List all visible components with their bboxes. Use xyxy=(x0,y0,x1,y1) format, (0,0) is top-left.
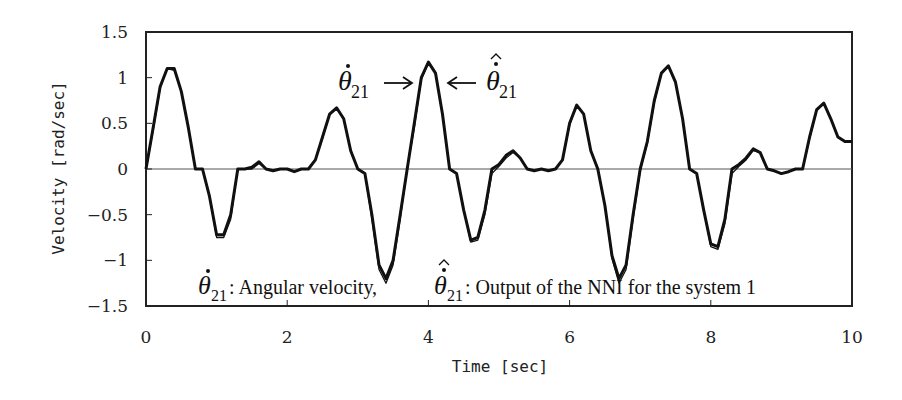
y-tick-label: −1 xyxy=(103,250,128,270)
svg-text:θ: θ xyxy=(486,65,500,96)
dot-accent xyxy=(442,268,446,272)
x-tick-label: 0 xyxy=(141,327,152,347)
x-tick-label: 8 xyxy=(705,327,716,347)
svg-text:21: 21 xyxy=(499,82,517,102)
dot-accent xyxy=(206,269,210,273)
velocity-chart: 1.510.50−0.5−1−1.5 0246810 Time [sec] Ve… xyxy=(0,0,902,400)
x-ticks: 0246810 xyxy=(141,300,863,347)
y-ticks: 1.510.50−0.5−1−1.5 xyxy=(87,22,152,316)
x-axis-title: Time [sec] xyxy=(452,357,548,376)
y-tick-label: 1.5 xyxy=(101,22,128,42)
svg-text:21: 21 xyxy=(447,287,463,304)
svg-text:: Angular velocity,: : Angular velocity, xyxy=(229,276,377,299)
y-tick-label: −0.5 xyxy=(87,205,128,225)
svg-text:21: 21 xyxy=(211,287,227,304)
svg-text:: Output of the NNI for the sy: : Output of the NNI for the system 1 xyxy=(465,276,756,299)
x-tick-label: 2 xyxy=(282,327,293,347)
svg-text:θ: θ xyxy=(434,271,447,300)
svg-text:θ: θ xyxy=(198,271,211,300)
y-axis-title: Velocity [rad/sec] xyxy=(49,81,68,254)
annotation-actual: θ 21 xyxy=(338,64,412,102)
x-tick-label: 4 xyxy=(423,327,434,347)
y-tick-label: 0 xyxy=(117,159,128,179)
annotation-estimate: θ 21 xyxy=(448,54,517,102)
y-tick-label: 0.5 xyxy=(101,113,128,133)
x-tick-label: 10 xyxy=(841,327,863,347)
y-tick-label: −1.5 xyxy=(87,296,128,316)
hat-accent xyxy=(439,260,449,265)
hat-accent xyxy=(491,54,501,59)
y-tick-label: 1 xyxy=(117,68,128,88)
dot-accent xyxy=(346,64,350,68)
svg-text:21: 21 xyxy=(351,82,369,102)
x-tick-label: 6 xyxy=(564,327,575,347)
dot-accent xyxy=(494,62,498,66)
svg-text:θ: θ xyxy=(338,65,352,96)
annotation-legend: θ 21 : Angular velocity, θ 21 : Output o… xyxy=(198,260,756,304)
